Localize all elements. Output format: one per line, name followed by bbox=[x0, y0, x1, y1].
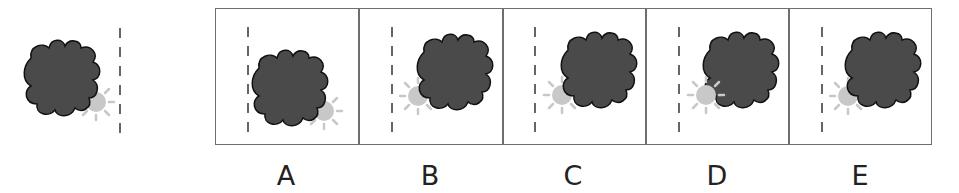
option-e-label[interactable]: E bbox=[840, 162, 880, 189]
option-b-label[interactable]: B bbox=[410, 162, 450, 189]
divider bbox=[502, 9, 504, 144]
options-panel bbox=[215, 8, 932, 145]
reference-figure bbox=[24, 28, 120, 135]
option-d-label[interactable]: D bbox=[697, 162, 737, 189]
divider bbox=[645, 9, 647, 144]
divider bbox=[358, 9, 360, 144]
option-a-label[interactable]: A bbox=[266, 162, 306, 189]
divider bbox=[788, 9, 790, 144]
cloud-icon bbox=[24, 40, 100, 116]
option-c-label[interactable]: C bbox=[553, 162, 593, 189]
